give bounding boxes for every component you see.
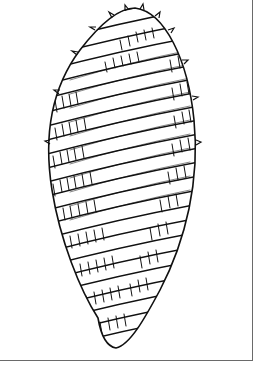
figure-caption [0, 366, 271, 384]
specimen-illustration [0, 0, 271, 386]
